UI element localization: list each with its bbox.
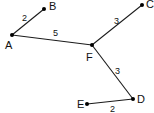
weight-label-f-d: 3	[115, 66, 120, 76]
node-b	[42, 7, 46, 11]
weight-label-a-f: 5	[53, 28, 58, 38]
weight-label-a-b: 2	[22, 13, 27, 23]
labels-layer: A B C F D E	[5, 0, 154, 110]
node-label-d: D	[137, 93, 145, 105]
nodes-layer	[10, 3, 144, 106]
edge-a-f	[12, 35, 92, 45]
node-label-f: F	[86, 51, 93, 63]
node-f	[90, 43, 94, 47]
weight-label-f-c: 3	[114, 16, 119, 26]
edge-f-d	[92, 45, 133, 99]
node-d	[131, 97, 135, 101]
node-label-e: E	[77, 98, 84, 110]
node-e	[85, 102, 89, 106]
edges-layer	[12, 5, 142, 104]
node-a	[10, 33, 14, 37]
weighted-graph-diagram: 2 5 3 3 2 A B C F D E	[0, 0, 154, 113]
node-c	[140, 3, 144, 7]
weight-label-e-d: 2	[110, 104, 115, 113]
node-label-b: B	[49, 0, 56, 12]
edge-a-b	[12, 9, 44, 35]
node-label-a: A	[5, 39, 13, 51]
node-label-c: C	[146, 0, 154, 10]
